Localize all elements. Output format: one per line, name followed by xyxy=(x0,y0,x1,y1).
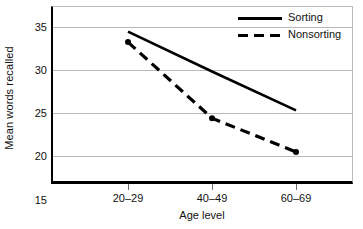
y-tick-label: 25 xyxy=(23,108,47,119)
x-axis-title: Age level xyxy=(51,209,353,221)
data-point-marker xyxy=(209,115,215,121)
legend-item-nonsorting: Nonsorting xyxy=(238,27,350,42)
x-tick-mark xyxy=(128,184,129,190)
y-axis-tick-labels: 3530252015 xyxy=(20,0,47,229)
y-tick-label: 30 xyxy=(23,65,47,76)
legend-label: Nonsorting xyxy=(288,27,341,42)
legend-item-sorting: Sorting xyxy=(238,10,350,25)
x-tick-label: 40–49 xyxy=(182,192,242,204)
legend-swatch-dashed-line-icon xyxy=(238,34,282,37)
legend-label: Sorting xyxy=(288,10,323,25)
y-axis-title-text: Mean words recalled xyxy=(3,46,15,149)
y-axis-title: Mean words recalled xyxy=(2,8,16,188)
chart-figure: Mean words recalled 3530252015 20–2940–4… xyxy=(0,0,363,229)
data-point-marker xyxy=(293,149,299,155)
chart-legend: SortingNonsorting xyxy=(238,10,350,44)
y-tick-label: 20 xyxy=(23,151,47,162)
x-tick-mark xyxy=(296,184,297,190)
y-tick-label: 15 xyxy=(23,195,47,206)
x-tick-mark xyxy=(212,184,213,190)
x-tick-label: 60–69 xyxy=(266,192,326,204)
series-line-nonsorting xyxy=(128,42,296,152)
x-tick-label: 20–29 xyxy=(98,192,158,204)
y-tick-label: 35 xyxy=(23,22,47,33)
data-point-marker xyxy=(125,39,131,45)
legend-swatch-solid-line-icon xyxy=(238,17,282,20)
